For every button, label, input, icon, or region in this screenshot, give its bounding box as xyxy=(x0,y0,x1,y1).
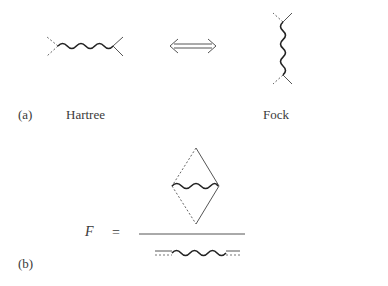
hartree-diagram xyxy=(47,37,123,56)
fock-top-left-leg xyxy=(273,13,283,22)
hartree-left-upper-leg xyxy=(47,37,58,46)
fock-diagram xyxy=(273,13,292,84)
hartree-left-lower-leg xyxy=(47,46,58,56)
f-symbol: F xyxy=(85,224,94,240)
panel-b-label: (b) xyxy=(18,256,33,272)
panel-a-label: (a) xyxy=(18,107,32,123)
hartree-label: Hartree xyxy=(66,107,105,123)
fock-bottom-right-leg xyxy=(283,75,292,84)
denominator-diagram xyxy=(155,251,240,256)
fock-wavy-line xyxy=(281,22,286,75)
diamond-diagram xyxy=(172,148,219,224)
hartree-wavy-line xyxy=(58,44,113,49)
fock-top-right-leg xyxy=(283,13,292,22)
diamond-wavy-line xyxy=(172,184,218,189)
fock-label: Fock xyxy=(263,107,289,123)
double-arrow-icon xyxy=(170,39,216,53)
hartree-right-lower-leg xyxy=(113,46,123,56)
hartree-right-upper-leg xyxy=(113,37,123,46)
fock-bottom-left-leg xyxy=(273,75,283,84)
equals-sign: = xyxy=(112,225,120,241)
feynman-diagrams xyxy=(0,0,388,286)
